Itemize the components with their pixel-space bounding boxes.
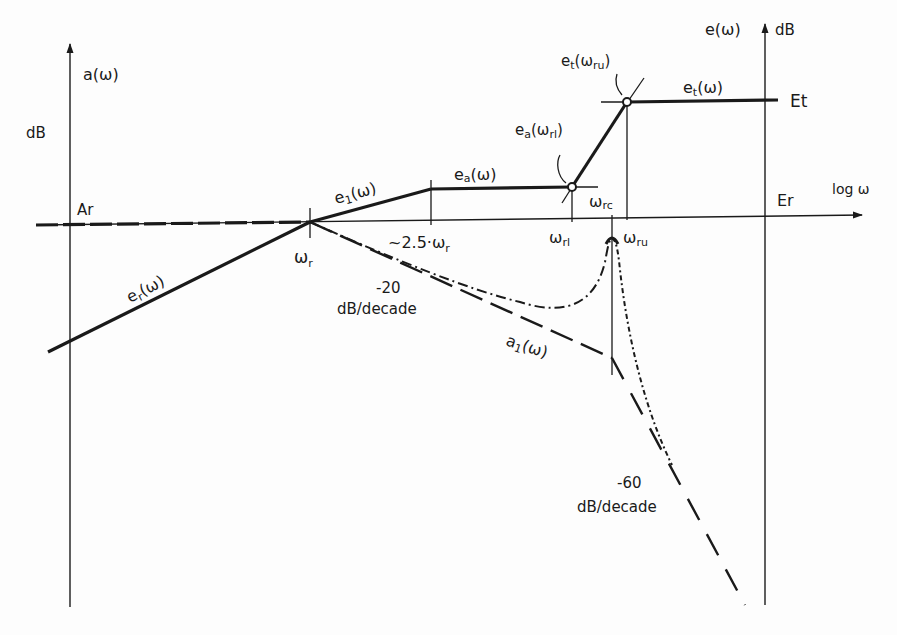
ea-wrl-point-marker: [568, 183, 576, 191]
wrl-label: ωrl: [549, 228, 570, 249]
a1-curve-label: a1(ω): [503, 331, 550, 364]
ea-wrl-label: ea(ωrl): [515, 121, 563, 141]
slope-annotations: -20 dB/decade -60 dB/decade: [337, 279, 657, 516]
construction-lines: [310, 74, 650, 375]
slope-20-unit: dB/decade: [337, 300, 417, 318]
w25-label: ~2.5·ωr: [388, 233, 450, 255]
slope-60-value: -60: [617, 474, 642, 492]
right-axis-unit: dB: [775, 21, 795, 39]
log-omega-label: log ω: [832, 181, 870, 197]
left-axis-quantity: a(ω): [83, 65, 119, 84]
et-curve-label: et(ω): [683, 78, 723, 99]
ea-curve-label: ea(ω): [454, 165, 496, 185]
right-axis-quantity: e(ω): [705, 20, 741, 39]
bode-diagram: a(ω) dB Ar e(ω) dB Et Er log ω: [0, 0, 897, 635]
left-axis-unit: dB: [26, 124, 46, 142]
et-wru-point-marker: [623, 98, 631, 106]
ar-label: Ar: [77, 201, 94, 219]
et-label: Et: [790, 91, 808, 111]
wrc-label: ωrc: [589, 192, 613, 212]
slope-60-unit: dB/decade: [577, 498, 657, 516]
ar-level-line: [36, 222, 310, 225]
slope-20-value: -20: [376, 279, 401, 297]
er-label: Er: [777, 191, 794, 210]
wr-label: ωr: [294, 247, 313, 270]
er-segment: [48, 222, 310, 352]
point-labels: ea(ωrl) et(ωru): [515, 52, 610, 141]
actual-response-curve: [310, 222, 672, 465]
axes: [36, 24, 862, 607]
et-wru-label: et(ωru): [561, 52, 610, 72]
diagram-canvas: a(ω) dB Ar e(ω) dB Et Er log ω: [0, 0, 897, 635]
wru-label: ωru: [623, 228, 648, 249]
